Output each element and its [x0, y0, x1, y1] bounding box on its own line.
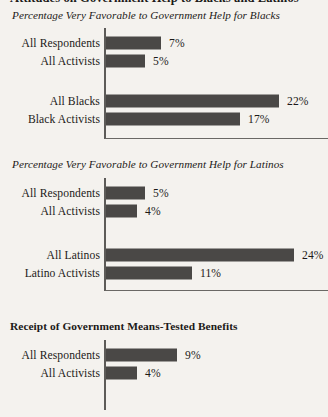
- bar-value: 24%: [302, 249, 324, 262]
- table-row: Latino Activists 11%: [106, 264, 328, 282]
- bar: [106, 55, 145, 68]
- plot-bottom-pad: [106, 128, 328, 138]
- bar: [106, 367, 137, 380]
- chart-1-subtitle: Percentage Very Favorable to Government …: [12, 9, 280, 21]
- bar-label: All Latinos: [46, 249, 100, 262]
- bar: [106, 267, 192, 280]
- bar-value: 7%: [169, 37, 185, 50]
- figure-main-title: Attitudes on Government Help to Blacks a…: [10, 0, 299, 6]
- table-row: All Blacks 22%: [106, 92, 328, 110]
- bar-value: 11%: [200, 267, 221, 280]
- bar-value: 5%: [153, 187, 169, 200]
- row-gap: [106, 70, 328, 86]
- bar-label: All Blacks: [50, 95, 100, 108]
- chart-3-title: Receipt of Government Means-Tested Benef…: [10, 320, 238, 332]
- bar: [106, 95, 279, 108]
- chart-2-subtitle: Percentage Very Favorable to Government …: [12, 158, 284, 170]
- bar: [106, 249, 294, 262]
- row-gap-pad: [106, 236, 328, 246]
- chart-1-plot-area: All Respondents 7% All Activists 5% All …: [104, 28, 328, 139]
- bar: [106, 349, 177, 362]
- bar-label: All Respondents: [22, 37, 100, 50]
- row-gap: [106, 220, 328, 236]
- bar-value: 4%: [145, 205, 161, 218]
- chart-2: All Respondents 5% All Activists 4% All …: [0, 178, 328, 301]
- bar-label: All Activists: [40, 55, 100, 68]
- plot-bottom-pad: [106, 282, 328, 290]
- table-row: All Activists 5%: [106, 52, 328, 70]
- table-row: All Activists 4%: [106, 364, 328, 382]
- table-row: All Respondents 7%: [106, 34, 328, 52]
- table-row: All Respondents 5%: [106, 184, 328, 202]
- chart-2-plot-area: All Respondents 5% All Activists 4% All …: [104, 178, 328, 291]
- figure-page: Attitudes on Government Help to Blacks a…: [0, 0, 328, 417]
- bar-label: All Respondents: [22, 349, 100, 362]
- bar: [106, 113, 240, 126]
- bar-label: All Activists: [40, 367, 100, 380]
- plot-bottom-pad: [106, 382, 328, 410]
- chart-3-plot-area: All Respondents 9% All Activists 4%: [104, 340, 328, 410]
- bar-label: Latino Activists: [25, 267, 100, 280]
- chart-3: All Respondents 9% All Activists 4%: [0, 340, 328, 417]
- chart-1: All Respondents 7% All Activists 5% All …: [0, 28, 328, 146]
- bar-label: All Respondents: [22, 187, 100, 200]
- bar-value: 17%: [248, 113, 270, 126]
- bar-value: 5%: [153, 55, 169, 68]
- table-row: All Latinos 24%: [106, 246, 328, 264]
- bar-label: Black Activists: [28, 113, 100, 126]
- bar-label: All Activists: [40, 205, 100, 218]
- bar: [106, 205, 137, 218]
- table-row: All Activists 4%: [106, 202, 328, 220]
- bar: [106, 187, 145, 200]
- bar-value: 22%: [287, 95, 309, 108]
- bar: [106, 37, 161, 50]
- table-row: All Respondents 9%: [106, 346, 328, 364]
- bar-value: 9%: [185, 349, 201, 362]
- bar-value: 4%: [145, 367, 161, 380]
- table-row: Black Activists 17%: [106, 110, 328, 128]
